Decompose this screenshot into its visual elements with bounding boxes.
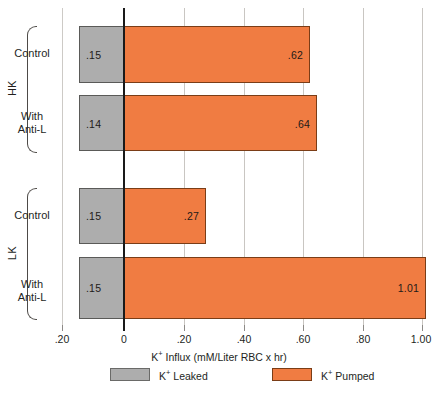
legend-item-pumped[interactable]: K+ Pumped bbox=[272, 368, 374, 382]
bar-value-pumped-hk-anti-l: .64 bbox=[295, 119, 310, 130]
legend-leaked-rest: Leaked bbox=[170, 370, 207, 382]
row-label-line2: Anti-L bbox=[0, 291, 64, 304]
legend-pumped-k: K bbox=[321, 370, 328, 382]
legend-label-pumped: K+ Pumped bbox=[321, 368, 374, 382]
bar-pumped-lk-control[interactable]: .27 bbox=[124, 188, 206, 244]
tick-mark-0.20 bbox=[184, 325, 185, 331]
tick-label-0.40: .40 bbox=[224, 333, 264, 345]
tick-mark-0.40 bbox=[244, 325, 245, 331]
bar-leaked-lk-anti-l[interactable]: .15 bbox=[79, 257, 125, 319]
bar-value-pumped-lk-control: .27 bbox=[184, 211, 199, 222]
bar-leaked-hk-anti-l[interactable]: .14 bbox=[79, 95, 125, 151]
chart-legend: K+ Leaked K+ Pumped bbox=[0, 368, 438, 388]
row-label-line1: Control bbox=[0, 47, 64, 60]
tick-label--0.20: .20 bbox=[42, 333, 82, 345]
row-label-line2: Anti-L bbox=[0, 123, 64, 136]
bar-value-leaked-hk-control: .15 bbox=[86, 50, 101, 61]
bar-value-pumped-lk-anti-l: 1.01 bbox=[398, 283, 419, 294]
tick-mark--0.20 bbox=[62, 325, 63, 331]
group-label-hk: HK bbox=[6, 71, 18, 105]
x-axis-title: K+ Influx (mM/Liter RBC x hr) bbox=[0, 349, 438, 363]
legend-label-leaked: K+ Leaked bbox=[159, 368, 208, 382]
legend-item-leaked[interactable]: K+ Leaked bbox=[110, 368, 208, 382]
tick-mark-0.80 bbox=[363, 325, 364, 331]
bar-pumped-hk-control[interactable]: .62 bbox=[124, 26, 310, 83]
tick-label-0: 0 bbox=[104, 333, 144, 345]
group-label-lk: LK bbox=[6, 236, 18, 270]
row-label-line1: Control bbox=[0, 209, 64, 222]
bar-value-leaked-lk-anti-l: .15 bbox=[86, 283, 101, 294]
bar-leaked-lk-control[interactable]: .15 bbox=[79, 188, 125, 244]
bar-value-leaked-lk-control: .15 bbox=[86, 211, 101, 222]
row-label-lk-control: Control bbox=[0, 209, 64, 222]
tick-label-0.80: .80 bbox=[343, 333, 383, 345]
bar-value-pumped-hk-control: .62 bbox=[288, 50, 303, 61]
tick-label-0.20: .20 bbox=[164, 333, 204, 345]
bar-pumped-lk-anti-l[interactable]: 1.01 bbox=[124, 257, 426, 319]
legend-pumped-rest: Pumped bbox=[332, 370, 374, 382]
k-influx-bar-chart: HK LK Control With Anti-L Control With A… bbox=[0, 0, 438, 394]
legend-swatch-leaked bbox=[110, 368, 150, 381]
bar-leaked-hk-control[interactable]: .15 bbox=[79, 26, 125, 83]
row-label-hk-anti-l: With Anti-L bbox=[0, 110, 64, 136]
bar-value-leaked-hk-anti-l: .14 bbox=[86, 119, 101, 130]
legend-leaked-k: K bbox=[159, 370, 166, 382]
row-label-line1: With bbox=[0, 110, 64, 123]
row-label-hk-control: Control bbox=[0, 47, 64, 60]
bar-pumped-hk-anti-l[interactable]: .64 bbox=[124, 95, 317, 151]
legend-swatch-pumped bbox=[272, 368, 312, 381]
zero-axis-line bbox=[123, 8, 125, 330]
tick-mark-0.60 bbox=[303, 325, 304, 331]
tick-label-1.00: 1.00 bbox=[401, 333, 438, 345]
tick-label-0.60: .60 bbox=[283, 333, 323, 345]
plot-area: HK LK Control With Anti-L Control With A… bbox=[0, 0, 438, 330]
tick-mark-1.00 bbox=[422, 325, 423, 331]
row-label-lk-anti-l: With Anti-L bbox=[0, 278, 64, 304]
axis-title-rest: Influx (mM/Liter RBC x hr) bbox=[163, 351, 287, 363]
tick-mark-0 bbox=[123, 323, 125, 331]
row-label-line1: With bbox=[0, 278, 64, 291]
